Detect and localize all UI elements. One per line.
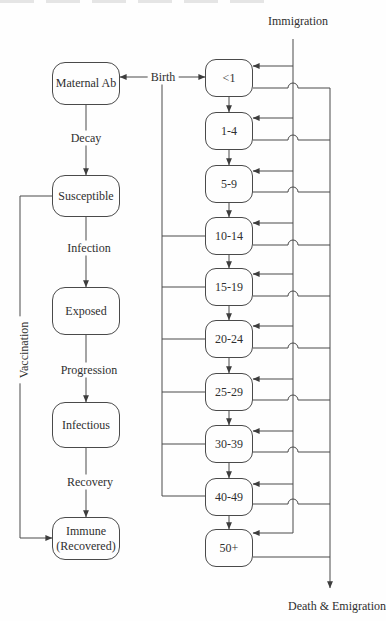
node-susceptible: Susceptible [52, 175, 120, 217]
node-infectious: Infectious [52, 402, 120, 448]
age-label: 50+ [220, 541, 239, 556]
age-label: 15-19 [215, 280, 243, 295]
age-label: <1 [223, 71, 236, 86]
age-label: 20-24 [215, 332, 243, 347]
node-sublabel: (Recovered) [56, 539, 115, 554]
immigration-line [253, 39, 293, 533]
progression-label: Progression [58, 363, 121, 378]
recovery-label: Recovery [64, 475, 116, 490]
node-age-10-14: 10-14 [205, 217, 253, 255]
birth-label: Birth [148, 70, 179, 85]
node-age-40-49: 40-49 [205, 478, 253, 516]
immigration-arrows [253, 66, 293, 484]
node-age-30-39: 30-39 [205, 425, 253, 463]
node-age-lt1: <1 [205, 59, 253, 97]
node-age-20-24: 20-24 [205, 320, 253, 358]
immigration-label: Immigration [268, 14, 328, 29]
infection-label: Infection [64, 241, 113, 256]
node-maternal-ab: Maternal Ab [52, 62, 120, 105]
age-label: 1-4 [221, 124, 237, 139]
age-label: 25-29 [215, 385, 243, 400]
node-age-5-9: 5-9 [205, 165, 253, 203]
birth-feeder-lines [162, 236, 205, 496]
age-label: 30-39 [215, 437, 243, 452]
age-label: 40-49 [215, 490, 243, 505]
node-immune-recovered: Immune (Recovered) [52, 517, 120, 560]
node-exposed: Exposed [52, 287, 120, 335]
node-age-25-29: 25-29 [205, 373, 253, 411]
age-label: 5-9 [221, 177, 237, 192]
node-age-1-4: 1-4 [205, 112, 253, 150]
decay-label: Decay [68, 131, 105, 146]
vaccination-label: Vaccination [17, 317, 32, 384]
mseir-age-diagram: Maternal Ab Susceptible Exposed Infectio… [0, 0, 386, 621]
node-label: Infectious [62, 418, 110, 433]
node-age-15-19: 15-19 [205, 268, 253, 306]
age-label: 10-14 [215, 229, 243, 244]
node-label: Maternal Ab [56, 76, 116, 91]
node-age-50plus: 50+ [205, 529, 253, 567]
death-emigration-label: Death & Emigration [288, 599, 386, 614]
death-flow-lines [253, 83, 330, 557]
node-label: Susceptible [58, 189, 113, 204]
node-label: Immune [66, 524, 106, 539]
node-label: Exposed [65, 304, 106, 319]
